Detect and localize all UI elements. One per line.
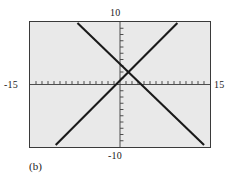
x-min-label: -15 xyxy=(4,79,18,90)
plot-canvas xyxy=(30,22,210,147)
y-max-label: 10 xyxy=(110,7,120,18)
y-min-label: -10 xyxy=(108,150,122,161)
figure-container: 10 -10 -15 15 (b) xyxy=(0,0,236,176)
x-max-label: 15 xyxy=(214,79,224,90)
figure-caption: (b) xyxy=(29,160,42,172)
plot-frame xyxy=(29,21,211,148)
